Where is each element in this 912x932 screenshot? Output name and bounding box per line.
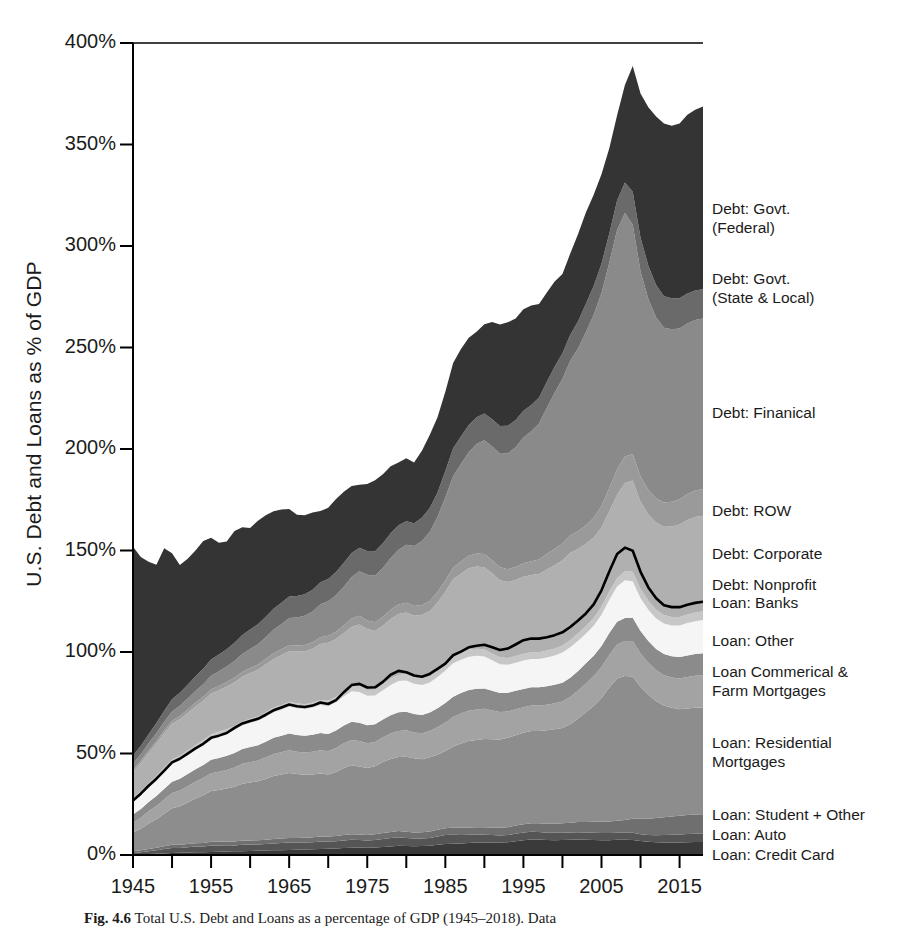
x-tick-1965: 1965 xyxy=(244,875,334,898)
legend-item-debt_corporate: Debt: Corporate xyxy=(712,545,822,564)
y-axis-label: U.S. Debt and Loans as % of GDP xyxy=(22,214,46,634)
y-tick-50: 50% xyxy=(42,741,116,764)
y-tick-300: 300% xyxy=(42,233,116,256)
legend-item-loan_residential_mortgages: Loan: Residential Mortgages xyxy=(712,734,832,771)
legend-item-loan_student_other: Loan: Student + Other xyxy=(712,806,865,825)
y-tick-250: 250% xyxy=(42,335,116,358)
legend-item-debt_govt_federal: Debt: Govt. (Federal) xyxy=(712,200,790,237)
y-tick-150: 150% xyxy=(42,538,116,561)
x-tick-1985: 1985 xyxy=(400,875,490,898)
x-tick-2015: 2015 xyxy=(635,875,725,898)
legend-item-loan_credit_card: Loan: Credit Card xyxy=(712,846,834,865)
stacked-area-chart xyxy=(0,0,912,932)
x-tick-1975: 1975 xyxy=(322,875,412,898)
x-tick-2005: 2005 xyxy=(556,875,646,898)
figure-caption-text: Total U.S. Debt and Loans as a percentag… xyxy=(135,910,557,926)
figure-container: U.S. Debt and Loans as % of GDP 0%50%100… xyxy=(0,0,912,932)
figure-caption: Fig. 4.6 Total U.S. Debt and Loans as a … xyxy=(84,908,912,932)
y-tick-200: 200% xyxy=(42,436,116,459)
y-tick-400: 400% xyxy=(42,30,116,53)
legend-item-debt_finanical: Debt: Finanical xyxy=(712,404,815,423)
figure-caption-label: Fig. 4.6 xyxy=(84,910,131,926)
legend-item-debt_row: Debt: ROW xyxy=(712,502,791,521)
legend-item-loan_auto: Loan: Auto xyxy=(712,826,786,845)
y-tick-0: 0% xyxy=(42,842,116,865)
legend-item-loan_banks: Loan: Banks xyxy=(712,594,798,613)
y-tick-100: 100% xyxy=(42,639,116,662)
legend-item-loan_commerical_farm_mortgages: Loan Commerical & Farm Mortgages xyxy=(712,663,848,700)
legend-item-loan_other: Loan: Other xyxy=(712,632,794,651)
x-tick-1995: 1995 xyxy=(478,875,568,898)
x-tick-1955: 1955 xyxy=(166,875,256,898)
legend-item-debt_govt_state_local: Debt: Govt. (State & Local) xyxy=(712,270,815,307)
y-tick-350: 350% xyxy=(42,132,116,155)
x-tick-1945: 1945 xyxy=(88,875,178,898)
legend-item-debt_nonprofit: Debt: Nonprofit xyxy=(712,576,816,595)
